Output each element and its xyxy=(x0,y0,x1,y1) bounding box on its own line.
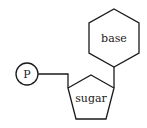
phosphate-sugar-bond xyxy=(38,74,68,88)
nucleotide-diagram: base sugar P xyxy=(0,0,147,128)
diagram-svg: base sugar P xyxy=(0,0,147,128)
sugar-label: sugar xyxy=(75,92,107,105)
base-label: base xyxy=(101,32,127,45)
phosphate-label: P xyxy=(23,68,31,81)
